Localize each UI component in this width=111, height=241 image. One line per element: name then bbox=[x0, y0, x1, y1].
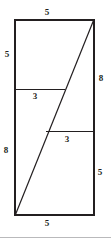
geometry-figure: 5 5 5 8 8 5 3 3 bbox=[0, 0, 111, 241]
dimension-label-top: 5 bbox=[40, 7, 54, 17]
dimension-label-right-upper: 8 bbox=[95, 73, 107, 83]
dimension-label-middle-upper: 3 bbox=[29, 91, 41, 101]
dimension-label-left-upper: 5 bbox=[1, 49, 13, 59]
dimension-label-right-lower: 5 bbox=[94, 167, 106, 177]
dimension-label-bottom: 5 bbox=[40, 218, 54, 228]
dimension-label-middle-lower: 3 bbox=[61, 134, 73, 144]
dimension-label-left-lower: 8 bbox=[0, 145, 12, 155]
figure-canvas bbox=[0, 0, 111, 241]
